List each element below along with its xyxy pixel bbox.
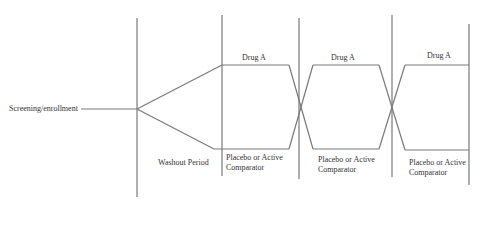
period1-comparator-line2: Comparator bbox=[226, 163, 283, 173]
washout-label: Washout Period bbox=[158, 158, 209, 168]
period1-comparator-label: Placebo or Active Comparator bbox=[226, 153, 283, 173]
period2-drug-label: Drug A bbox=[331, 53, 355, 63]
period3-comparator-label: Placebo or Active Comparator bbox=[409, 158, 466, 178]
period3-drug-label: Drug A bbox=[427, 51, 451, 61]
screening-label: Screening/enrollment bbox=[9, 104, 78, 114]
period2-comparator-line2: Comparator bbox=[318, 165, 375, 175]
period3-comparator-line2: Comparator bbox=[409, 168, 466, 178]
period3-comparator-line1: Placebo or Active bbox=[409, 158, 466, 168]
period1-drug-label: Drug A bbox=[242, 53, 266, 63]
period1-comparator-line1: Placebo or Active bbox=[226, 153, 283, 163]
period2-comparator-line1: Placebo or Active bbox=[318, 155, 375, 165]
period2-comparator-label: Placebo or Active Comparator bbox=[318, 155, 375, 175]
